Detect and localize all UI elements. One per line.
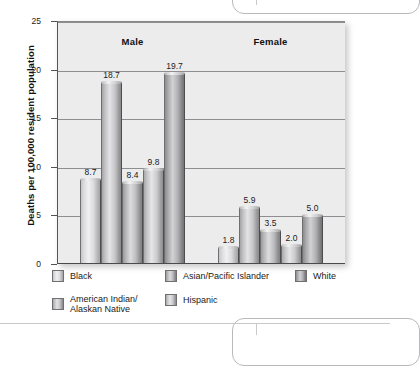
page-top-divider-tick <box>256 0 257 5</box>
legend-swatch-icon <box>165 294 177 306</box>
bar-female-3 <box>281 245 302 264</box>
bar-top-cap <box>239 206 260 209</box>
plot-area-wrapper: MaleFemale 8.718.78.49.819.71.85.93.52.0… <box>57 21 345 264</box>
bar-top-cap <box>122 181 143 184</box>
y-tick-label-15: 15 <box>17 113 41 123</box>
bar-female-0 <box>218 247 239 264</box>
bar-top-cap <box>302 214 323 217</box>
page-bottom-divider-tick <box>256 323 257 335</box>
legend-label: American Indian/ Alaskan Native <box>70 294 138 314</box>
bar-top-cap <box>260 229 281 232</box>
bar-male-4 <box>164 73 185 264</box>
group-header-male: Male <box>58 36 207 47</box>
legend-item-asian-pacific-islander[interactable]: Asian/Pacific Islander <box>165 270 269 282</box>
legend-item-white[interactable]: White <box>295 270 336 282</box>
bar-female-1 <box>239 207 260 264</box>
bar-value-label: 5.9 <box>233 195 266 205</box>
bar-female-4 <box>302 215 323 264</box>
legend-swatch-icon <box>165 270 177 282</box>
legend-swatch-icon <box>52 270 64 282</box>
bar-top-cap <box>281 244 302 247</box>
legend-item-black[interactable]: Black <box>52 270 92 282</box>
bar-male-0 <box>80 179 101 264</box>
bar-top-cap <box>80 178 101 181</box>
legend-label: Asian/Pacific Islander <box>183 271 269 281</box>
bar-chart-figure: Deaths per 100,000 resident population 2… <box>0 10 390 316</box>
page-bottom-rule <box>0 323 390 324</box>
legend-label: Hispanic <box>183 295 218 305</box>
legend-swatch-icon <box>295 270 307 282</box>
y-tick-label-5: 5 <box>17 210 41 220</box>
bar-top-cap <box>143 168 164 171</box>
legend-label: White <box>313 271 336 281</box>
bar-value-label: 18.7 <box>95 70 128 80</box>
y-tick-label-25: 25 <box>17 16 41 26</box>
bar-top-cap <box>218 246 239 249</box>
legend-swatch-icon <box>52 298 64 310</box>
legend-label: Black <box>70 271 92 281</box>
page-rounded-box-bottom <box>232 318 420 366</box>
bar-value-label: 5.0 <box>296 203 329 213</box>
bar-top-cap <box>101 81 122 84</box>
bar-value-label: 19.7 <box>158 61 191 71</box>
y-tick-label-10: 10 <box>17 162 41 172</box>
legend-item-hispanic[interactable]: Hispanic <box>165 294 218 306</box>
x-axis-baseline <box>58 263 345 264</box>
bar-male-3 <box>143 169 164 264</box>
bar-top-cap <box>164 72 185 75</box>
chart-legend: BlackAsian/Pacific IslanderWhite America… <box>0 268 390 316</box>
y-tick-label-20: 20 <box>17 65 41 75</box>
bar-value-label: 3.5 <box>254 218 287 228</box>
gridline-25 <box>58 22 345 23</box>
legend-item-american-indian-alaskan-native[interactable]: American Indian/ Alaskan Native <box>52 294 138 314</box>
y-tick-mark-0 <box>51 264 57 265</box>
plot-area: MaleFemale 8.718.78.49.819.71.85.93.52.0… <box>57 21 345 264</box>
group-header-female: Female <box>196 36 345 47</box>
bar-male-2 <box>122 182 143 264</box>
